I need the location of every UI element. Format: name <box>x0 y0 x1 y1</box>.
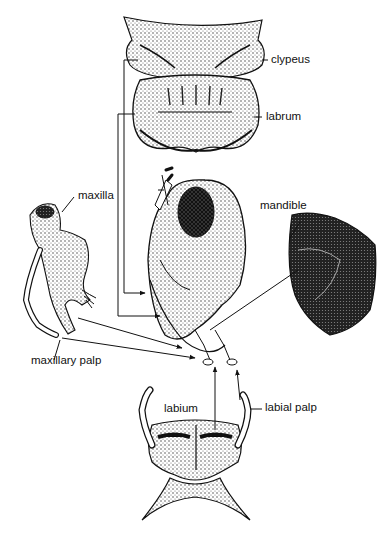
mandible-illustration <box>289 213 376 335</box>
label-labium: labium <box>164 403 198 415</box>
label-labial-palp: labial palp <box>265 402 317 414</box>
maxilla-illustration <box>26 204 96 335</box>
head-illustration <box>148 168 246 365</box>
label-maxilla: maxilla <box>78 190 114 202</box>
labrum-illustration <box>133 75 259 152</box>
label-mandible: mandible <box>260 200 307 212</box>
label-clypeus: clypeus <box>271 54 310 66</box>
label-labrum: labrum <box>266 111 301 123</box>
mouthparts-diagram: clypeus labrum maxilla mandible maxillar… <box>0 0 388 545</box>
clypeus-illustration <box>124 17 264 80</box>
label-maxillary-palp: maxillary palp <box>31 355 101 367</box>
diagram-artwork <box>0 0 388 545</box>
